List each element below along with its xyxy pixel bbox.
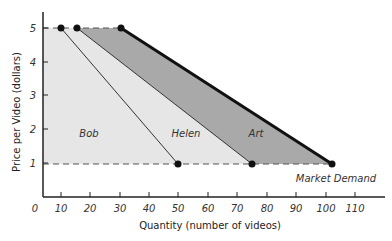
x-tick-label: 10 <box>55 203 68 214</box>
x-tick-label: 30 <box>114 203 127 214</box>
demand-chart: 5 4 3 2 1 0 10 20 30 40 50 60 70 80 90 1… <box>0 0 392 241</box>
x-tick-label: 40 <box>143 203 156 214</box>
bob-top-point <box>58 25 65 32</box>
x-tick-label: 80 <box>261 203 274 214</box>
y-tick-label: 4 <box>30 57 36 68</box>
x-tick-label: 70 <box>231 203 244 214</box>
y-tick-label: 2 <box>30 124 36 135</box>
x-tick-label: 110 <box>345 203 364 214</box>
y-tick-label: 3 <box>30 90 36 101</box>
x-tick-label: 100 <box>316 203 335 214</box>
helen-bottom-point <box>249 161 256 168</box>
x-tick-label: 0 <box>32 203 38 214</box>
bob-bottom-point <box>175 161 182 168</box>
x-axis-title: Quantity (number of videos) <box>139 220 281 231</box>
art-top-point <box>118 25 125 32</box>
x-tick-label: 90 <box>290 203 303 214</box>
market-bottom-point <box>329 161 336 168</box>
x-tick-label: 20 <box>84 203 97 214</box>
art-label: Art <box>248 128 265 139</box>
helen-top-point <box>74 25 81 32</box>
market-demand-label: Market Demand <box>296 173 377 184</box>
y-axis-title: Price per Video (dollars) <box>11 52 22 172</box>
y-tick-label: 1 <box>30 158 36 169</box>
y-tick-label: 5 <box>30 23 36 34</box>
bob-label: Bob <box>79 128 98 139</box>
helen-label: Helen <box>172 128 201 139</box>
x-tick-label: 50 <box>172 203 185 214</box>
x-tick-label: 60 <box>202 203 215 214</box>
